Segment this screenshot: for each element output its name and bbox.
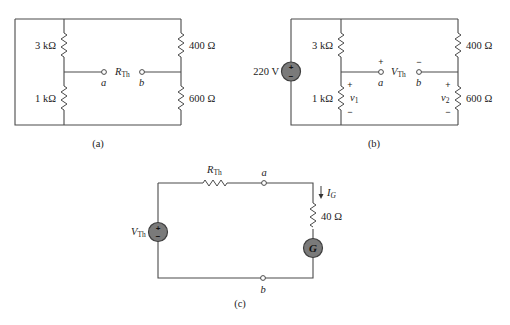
terminal-b-icon: [417, 70, 422, 75]
source-minus-sign: −: [289, 72, 294, 81]
terminal-a-label: a: [101, 77, 106, 88]
current-label: IG: [326, 187, 337, 200]
v1-minus-sign: −: [347, 107, 352, 117]
caption-b: (b): [368, 138, 381, 150]
resistor-label: 1 kΩ: [35, 93, 56, 104]
circuit-figure: 3 kΩ 1 kΩ 400 Ω 600 Ω a b RTh (a) + − 22…: [0, 0, 510, 325]
terminal-b-label: b: [139, 77, 144, 88]
resistor-40-icon: [310, 203, 316, 227]
resistor-1k-icon: [338, 86, 344, 110]
terminal-a-icon: [262, 181, 267, 186]
caption-a: (a): [92, 138, 104, 150]
resistor-rth-icon: [203, 180, 227, 186]
resistor-label: 3 kΩ: [312, 40, 333, 51]
terminal-a-label: a: [378, 77, 383, 88]
rth-label: RTh: [114, 66, 130, 79]
terminal-a-sign: +: [378, 57, 383, 67]
caption-c: (c): [234, 298, 246, 310]
resistor-label: 600 Ω: [466, 93, 492, 104]
terminal-b-icon: [140, 70, 145, 75]
terminal-b-label: b: [260, 284, 265, 295]
resistor-3k-icon: [61, 33, 67, 57]
load-resistor-label: 40 Ω: [321, 211, 342, 222]
v2-plus-sign: +: [445, 80, 450, 90]
resistor-600-icon: [178, 86, 184, 110]
galvanometer-label: G: [309, 242, 317, 254]
terminal-a-icon: [102, 70, 107, 75]
resistor-label: 3 kΩ: [35, 40, 56, 51]
rth-label: RTh: [206, 164, 222, 177]
vth-label: VTh: [131, 226, 146, 239]
source-minus-sign: −: [156, 232, 161, 241]
arrow-head-icon: [319, 194, 324, 199]
resistor-3k-icon: [338, 33, 344, 57]
resistor-label: 1 kΩ: [312, 93, 333, 104]
resistor-600-icon: [455, 86, 461, 110]
resistor-1k-icon: [61, 86, 67, 110]
panel-a: 3 kΩ 1 kΩ 400 Ω 600 Ω a b RTh (a): [15, 19, 215, 150]
resistor-400-icon: [455, 33, 461, 57]
panel-c: a b RTh IG 40 Ω G + − VTh (c): [131, 164, 342, 310]
vth-label: VTh: [391, 66, 406, 79]
v2-minus-sign: −: [445, 107, 450, 117]
resistor-400-icon: [178, 33, 184, 57]
resistor-label: 400 Ω: [189, 40, 215, 51]
resistor-label: 600 Ω: [189, 93, 215, 104]
panel-b: + − 220 V + − a b VTh 3 kΩ 1 kΩ 400 Ω 60…: [253, 19, 492, 150]
resistor-label: 400 Ω: [466, 40, 492, 51]
wire: [158, 183, 313, 278]
v1-plus-sign: +: [347, 80, 352, 90]
source-value-label: 220 V: [253, 66, 279, 77]
v2-label: v2: [441, 92, 450, 105]
v1-label: v1: [350, 92, 359, 105]
terminal-b-sign: −: [416, 57, 421, 67]
terminal-b-icon: [261, 276, 266, 281]
terminal-a-label: a: [261, 167, 266, 178]
terminal-b-label: b: [416, 77, 421, 88]
terminal-a-icon: [379, 70, 384, 75]
